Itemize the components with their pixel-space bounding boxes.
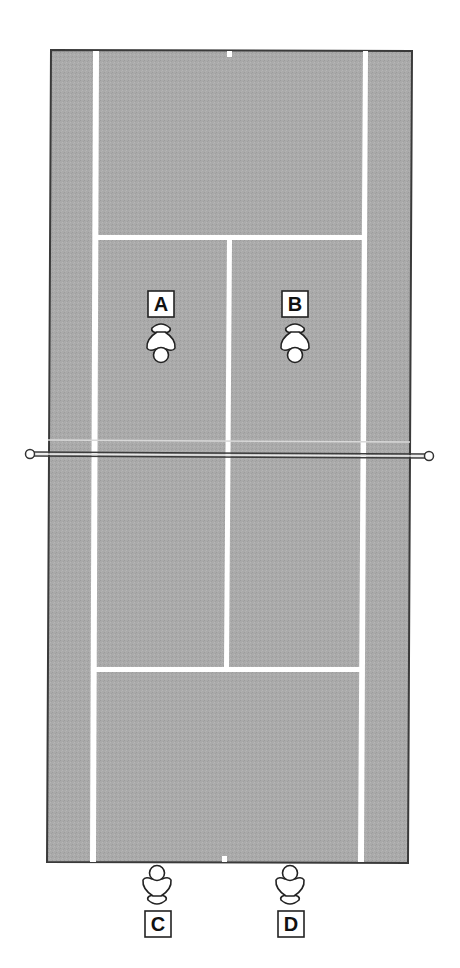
far-service-line bbox=[97, 235, 365, 240]
left-net-post bbox=[26, 450, 35, 459]
right-net-post bbox=[425, 452, 434, 461]
near-service-line bbox=[94, 667, 362, 672]
player-figure-icon bbox=[276, 866, 304, 905]
player-c-label: C bbox=[145, 911, 171, 937]
player-d-label: D bbox=[278, 911, 304, 937]
tennis-court-diagram: A B C D bbox=[0, 0, 460, 968]
player-c-letter: C bbox=[151, 913, 165, 935]
player-b-letter: B bbox=[288, 293, 302, 315]
player-c bbox=[143, 866, 171, 905]
player-figure-icon bbox=[143, 866, 171, 905]
far-center-mark bbox=[227, 51, 232, 57]
near-center-mark bbox=[222, 856, 227, 862]
player-d bbox=[276, 866, 304, 905]
player-a-label: A bbox=[148, 291, 174, 317]
player-a-letter: A bbox=[154, 293, 168, 315]
player-d-letter: D bbox=[284, 913, 298, 935]
player-b-label: B bbox=[282, 291, 308, 317]
